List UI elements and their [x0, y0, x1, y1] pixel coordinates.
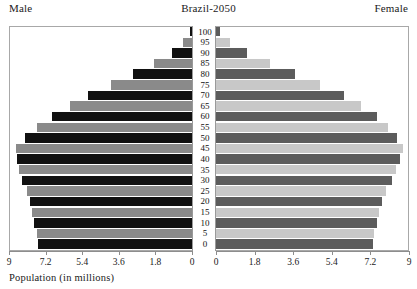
male-bar [37, 229, 192, 238]
female-bar [216, 144, 403, 153]
axis-tick-label: 3.6 [113, 257, 125, 267]
axis-tick [216, 251, 217, 255]
axis-tick-label: 5.4 [76, 257, 88, 267]
age-label: 15 [193, 207, 217, 218]
age-label: 65 [193, 101, 217, 112]
female-bar [216, 48, 247, 57]
female-bar [216, 165, 396, 174]
male-bar [25, 133, 192, 142]
female-bar [216, 101, 361, 110]
male-bar [111, 80, 192, 89]
age-label: 75 [193, 80, 217, 91]
age-label: 60 [193, 111, 217, 122]
male-bar [22, 176, 192, 185]
female-bar [216, 154, 400, 163]
axis-tick [46, 251, 47, 255]
age-label: 5 [193, 228, 217, 239]
age-label: 40 [193, 154, 217, 165]
axis-tick-label: 1.8 [149, 257, 161, 267]
female-bar [216, 133, 397, 142]
age-label: 100 [193, 27, 217, 38]
chart-header: Male Brazil-2050 Female [0, 2, 417, 20]
female-bar [216, 186, 386, 195]
female-bar [216, 123, 388, 132]
axis-tick-label: 5.4 [326, 257, 338, 267]
axis-tick [9, 251, 10, 255]
male-bar [38, 239, 192, 248]
female-bar [216, 229, 374, 238]
age-label: 25 [193, 186, 217, 197]
male-bar [172, 48, 192, 57]
axis-tick-label: 9 [407, 257, 412, 267]
axis-tick-label: 9 [7, 257, 12, 267]
age-label: 70 [193, 90, 217, 101]
population-pyramid-chart: Male Brazil-2050 Female 0510152025303540… [0, 0, 417, 289]
age-label: 30 [193, 175, 217, 186]
age-label: 35 [193, 165, 217, 176]
male-bar [16, 144, 192, 153]
female-bar [216, 91, 344, 100]
male-bar [154, 59, 192, 68]
female-bar [216, 80, 320, 89]
axis-tick [155, 251, 156, 255]
male-bar [37, 123, 192, 132]
axis-tick-label: 1.8 [249, 257, 261, 267]
male-bar [183, 38, 192, 47]
axis-tick [82, 251, 83, 255]
female-bar [216, 69, 295, 78]
female-side-label: Female [374, 2, 408, 14]
age-label: 45 [193, 143, 217, 154]
female-bar [216, 59, 270, 68]
age-label: 80 [193, 69, 217, 80]
male-bar [88, 91, 192, 100]
male-axis-line [9, 251, 193, 252]
age-label: 55 [193, 122, 217, 133]
axis-tick-label: 0 [190, 257, 195, 267]
chart-title: Brazil-2050 [0, 2, 417, 14]
female-bar [216, 239, 373, 248]
axis-tick [293, 251, 294, 255]
age-label: 85 [193, 58, 217, 69]
axis-title: Population (in millions) [9, 272, 114, 283]
male-bar [19, 165, 192, 174]
female-bar [216, 218, 377, 227]
axis-tick [332, 251, 333, 255]
age-axis-column: 0510152025303540455055606570758085909510… [192, 26, 216, 251]
female-bar [216, 208, 379, 217]
axis-tick-label: 7.2 [364, 257, 376, 267]
male-bar [32, 208, 192, 217]
axis-tick-label: 7.2 [40, 257, 52, 267]
male-bar [17, 154, 192, 163]
female-bar [216, 176, 392, 185]
male-bar [27, 186, 192, 195]
axis-tick [370, 251, 371, 255]
axis-tick [255, 251, 256, 255]
male-bar [70, 101, 192, 110]
male-bar [52, 112, 192, 121]
male-bar [133, 69, 192, 78]
axis-tick [119, 251, 120, 255]
female-axis-line [216, 251, 409, 252]
axis-tick [192, 251, 193, 255]
female-bar [216, 38, 230, 47]
age-label: 20 [193, 196, 217, 207]
female-bar [216, 112, 377, 121]
axis-tick [409, 251, 410, 255]
age-label: 10 [193, 218, 217, 229]
axis-tick-label: 0 [214, 257, 219, 267]
age-label: 50 [193, 133, 217, 144]
male-bar [30, 197, 192, 206]
male-bar [34, 218, 192, 227]
age-label: 95 [193, 37, 217, 48]
age-label: 0 [193, 239, 217, 250]
age-label: 90 [193, 48, 217, 59]
female-bar [216, 197, 382, 206]
axis-tick-label: 3.6 [287, 257, 299, 267]
